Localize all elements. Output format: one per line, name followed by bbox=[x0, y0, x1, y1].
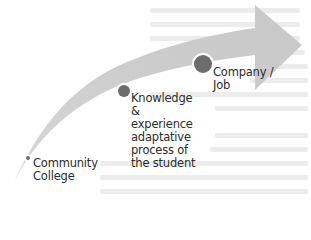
label-line: Knowledge bbox=[131, 92, 195, 105]
node-company-label: Company / Job bbox=[213, 66, 273, 92]
label-line: the student bbox=[131, 157, 195, 170]
node-community-college-marker bbox=[25, 155, 32, 162]
node-company-marker bbox=[192, 53, 214, 75]
node-community-college-label: Community College bbox=[33, 157, 98, 183]
label-line: College bbox=[33, 170, 98, 183]
label-line: Job bbox=[213, 79, 273, 92]
node-knowledge-label: Knowledge & experience adaptative proces… bbox=[131, 92, 195, 170]
node-knowledge-marker bbox=[116, 83, 132, 99]
